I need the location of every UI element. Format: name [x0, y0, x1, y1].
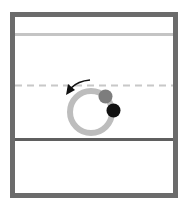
gray-ball	[99, 90, 113, 104]
diagram-canvas	[0, 0, 188, 199]
outer-frame	[13, 15, 176, 196]
black-ball	[107, 104, 121, 118]
